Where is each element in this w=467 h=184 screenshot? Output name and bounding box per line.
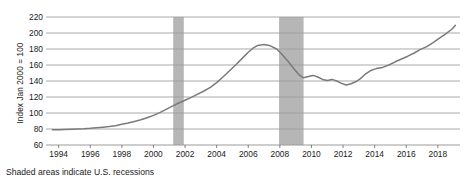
data-series-lines — [52, 25, 455, 129]
chart-figure: Index Jan 2000 = 100 6080100120140160180… — [0, 0, 467, 184]
series-line — [52, 25, 455, 129]
chart-caption: Shaded areas indicate U.S. recessions — [6, 167, 154, 178]
gridlines — [46, 17, 460, 145]
x-tick-label: 2018 — [418, 150, 458, 159]
